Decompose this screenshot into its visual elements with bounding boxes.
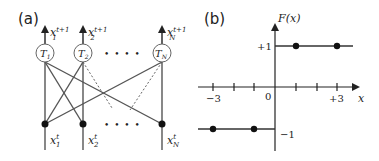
input-node-1	[42, 121, 49, 128]
tick-label-pos3: +3	[329, 93, 344, 104]
node-tn: TN	[153, 44, 171, 62]
tick-label-zero: 0	[265, 91, 271, 102]
input-label-2: xt2	[88, 133, 99, 149]
ellipsis-bottom: • • • •	[104, 120, 141, 130]
panel-b-label: (b)	[204, 10, 225, 28]
panel-a-label: (a)	[18, 10, 39, 28]
input-node-2	[80, 121, 87, 128]
tick-label-neg3: −3	[206, 93, 221, 104]
y-axis-label: F(x)	[277, 12, 300, 25]
figure: (a)	[0, 0, 379, 161]
network-connections	[45, 62, 162, 124]
output-label-2: xt+12	[88, 26, 107, 42]
tick-label-neg1: −1	[280, 129, 295, 140]
node-t2: T2	[74, 44, 92, 62]
input-node-n	[159, 121, 166, 128]
node-t1: T1	[36, 44, 54, 62]
output-label-1: xt+11	[50, 26, 69, 42]
input-label-n: xtN	[167, 133, 180, 149]
tick-label-pos1: +1	[257, 41, 272, 52]
output-label-n: xt+1N	[167, 26, 186, 42]
x-axis-label: x	[358, 92, 365, 105]
input-label-1: xt1	[50, 133, 61, 149]
ellipsis-top: • • • •	[104, 49, 141, 59]
panel-b: (b) F(x) x −3 0 +3 +1 −1	[198, 10, 365, 151]
panel-a: (a)	[18, 10, 186, 150]
